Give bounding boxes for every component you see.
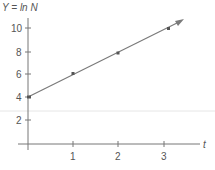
x-tick-label-3: 3 (161, 151, 167, 162)
data-point-t0 (27, 96, 31, 99)
y-tick-label-4: 4 (16, 92, 22, 103)
data-point-t2 (117, 52, 120, 55)
arrowhead-icon (175, 19, 184, 26)
y-tick-label-10: 10 (11, 23, 23, 34)
y-tick-label-2: 2 (16, 115, 22, 126)
y-tick-label-6: 6 (16, 69, 22, 80)
data-point-t1 (72, 72, 75, 75)
x-tick-label-1: 1 (70, 151, 76, 162)
x-tick-label-2: 2 (115, 151, 121, 162)
x-axis-title: t (203, 139, 207, 150)
fitted-line (28, 21, 181, 97)
y-tick-label-8: 8 (16, 47, 22, 58)
y-axis-title: Y = ln N (2, 2, 38, 13)
chart: Y = ln N t 10 8 6 4 2 1 2 3 (0, 0, 215, 170)
data-point-t3 (167, 27, 170, 30)
